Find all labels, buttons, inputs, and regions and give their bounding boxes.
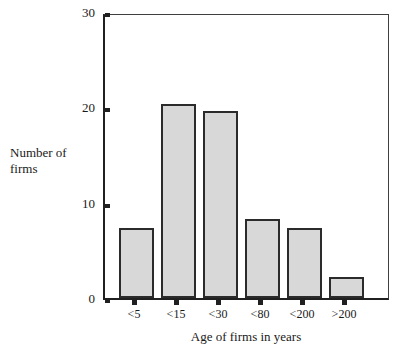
x-tick-mark [258,300,263,305]
x-tick-mark [342,300,347,305]
y-tick-mark [105,13,110,17]
x-tick-mark [300,300,305,305]
bar [287,228,322,298]
bar [245,219,280,298]
bar [329,277,364,298]
y-axis-label: Number of firms [10,145,100,177]
x-tick-mark [216,300,221,305]
bar [161,104,196,298]
x-axis-label: Age of firms in years [103,329,389,345]
y-tick-label: 30 [55,6,95,20]
y-tick-mark [105,204,110,208]
y-tick-mark [105,299,110,303]
x-tick-mark [174,300,179,305]
y-tick-label: 0 [55,292,95,306]
y-tick-label: 20 [55,101,95,115]
x-tick-label: >200 [314,307,374,321]
y-tick-mark [105,108,110,112]
bar [203,111,238,298]
histogram-figure: Number of firms 0102030 <5<15<30<80<200>… [0,0,401,353]
plot-area: 0102030 [103,14,389,300]
y-tick-label: 10 [55,197,95,211]
bar [119,228,154,298]
x-tick-mark [132,300,137,305]
